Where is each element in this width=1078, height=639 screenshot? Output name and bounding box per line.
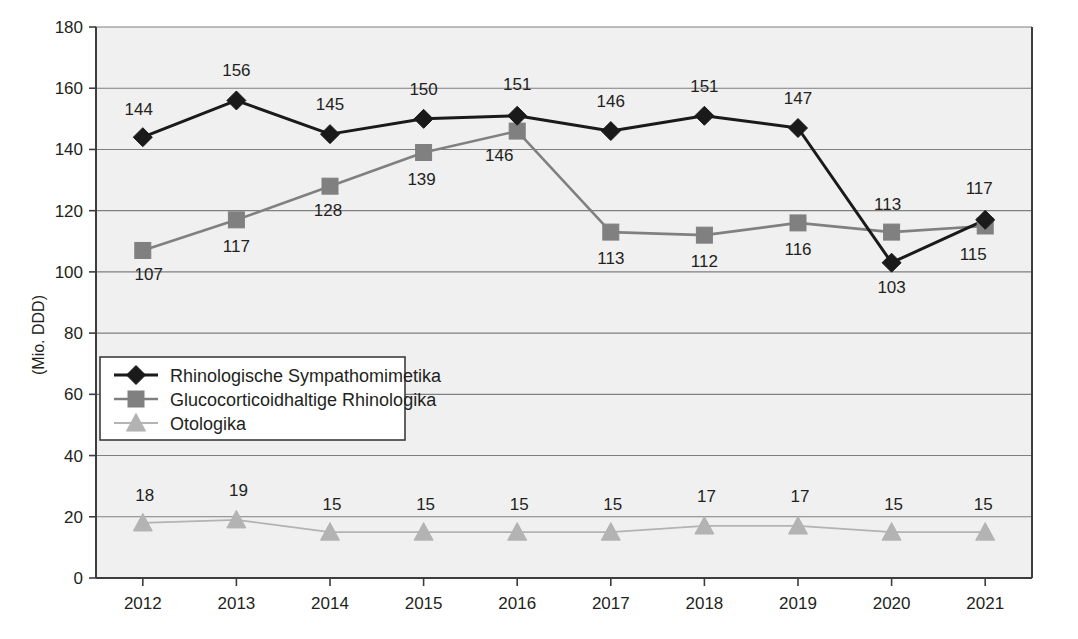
data-point-label: 116 <box>784 240 811 259</box>
data-point-label: 107 <box>135 265 163 284</box>
x-tick-label: 2019 <box>779 594 817 613</box>
y-tick-label: 40 <box>64 447 83 466</box>
y-tick-label: 160 <box>55 79 83 98</box>
x-tick-label: 2020 <box>873 594 911 613</box>
y-tick-label: 180 <box>55 18 83 37</box>
data-point-label: 139 <box>407 170 435 189</box>
data-point-label: 115 <box>960 245 987 264</box>
marker-square <box>228 212 244 228</box>
chart-legend: Rhinologische SympathomimetikaGlucocorti… <box>100 357 442 440</box>
data-point-label: 15 <box>510 495 529 514</box>
y-tick-label: 0 <box>74 569 83 588</box>
y-tick-label: 80 <box>64 324 83 343</box>
x-tick-label: 2016 <box>498 594 536 613</box>
x-axis-tick-labels: 2012201320142015201620172018201920202021 <box>124 594 1004 613</box>
data-point-label: 15 <box>323 495 342 514</box>
y-tick-label: 60 <box>64 385 83 404</box>
marker-square <box>128 391 144 407</box>
marker-square <box>603 224 619 240</box>
legend-item[interactable]: Otologika <box>114 414 247 435</box>
marker-square <box>135 242 151 258</box>
x-tick-label: 2021 <box>966 594 1004 613</box>
x-tick-label: 2018 <box>685 594 723 613</box>
data-point-label: 144 <box>125 100 153 119</box>
y-tick-label: 140 <box>55 140 83 159</box>
data-point-label: 146 <box>597 92 625 111</box>
data-point-label: 128 <box>314 201 342 220</box>
data-point-label: 151 <box>690 77 718 96</box>
data-point-label: 17 <box>791 487 810 506</box>
data-point-label: 15 <box>416 495 435 514</box>
line-chart: 020406080100120140160180 201220132014201… <box>0 0 1078 639</box>
data-point-label: 113 <box>874 195 901 214</box>
marker-square <box>696 227 712 243</box>
data-point-label: 150 <box>409 80 437 99</box>
data-point-label: 103 <box>877 278 905 297</box>
chart-canvas: 020406080100120140160180 201220132014201… <box>0 0 1078 639</box>
marker-square <box>884 224 900 240</box>
legend-item-label: Rhinologische Sympathomimetika <box>170 366 442 386</box>
x-tick-label: 2017 <box>592 594 630 613</box>
x-tick-label: 2014 <box>311 594 349 613</box>
data-point-label: 19 <box>229 481 248 500</box>
marker-square <box>322 178 338 194</box>
y-axis-tick-labels: 020406080100120140160180 <box>55 18 83 588</box>
x-tick-label: 2013 <box>217 594 255 613</box>
data-point-label: 145 <box>316 95 344 114</box>
data-point-label: 15 <box>884 495 903 514</box>
legend-item-label: Otologika <box>170 414 247 434</box>
marker-square <box>416 145 432 161</box>
data-point-label: 117 <box>966 179 993 198</box>
data-point-label: 146 <box>485 146 513 165</box>
x-axis-ticks <box>143 578 985 586</box>
data-point-label: 18 <box>135 486 154 505</box>
data-point-label: 17 <box>697 487 716 506</box>
marker-square <box>790 215 806 231</box>
y-axis-title: (Mio. DDD) <box>30 295 47 375</box>
data-point-label: 112 <box>691 252 718 271</box>
y-tick-label: 20 <box>64 508 83 527</box>
y-axis-ticks <box>89 27 96 578</box>
data-point-label: 113 <box>597 249 624 268</box>
data-point-label: 15 <box>603 495 622 514</box>
x-tick-label: 2012 <box>124 594 162 613</box>
y-tick-label: 100 <box>55 263 83 282</box>
data-point-label: 147 <box>784 89 812 108</box>
x-tick-label: 2015 <box>405 594 443 613</box>
data-point-label: 117 <box>223 237 250 256</box>
y-tick-label: 120 <box>55 202 83 221</box>
data-point-label: 156 <box>222 61 250 80</box>
legend-item-label: Glucocorticoidhaltige Rhinologika <box>170 390 437 410</box>
data-point-label: 15 <box>974 495 993 514</box>
data-point-label: 151 <box>503 75 531 94</box>
